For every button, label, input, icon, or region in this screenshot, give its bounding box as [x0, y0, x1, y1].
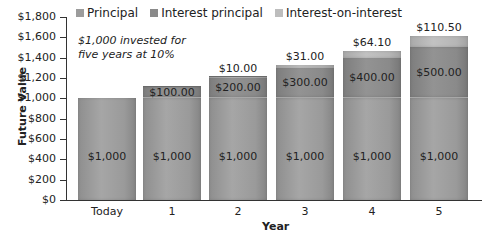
bar-top-label: $31.00: [265, 50, 345, 63]
y-tick-mark: [60, 200, 66, 201]
x-tick-label: 2: [209, 205, 267, 218]
bar-1: $1,000$100.00: [143, 88, 201, 200]
y-tick-label: $1,800: [4, 11, 56, 23]
bar-value-label: $200.00: [209, 81, 267, 94]
legend-item-interest-principal: Interest principal: [150, 6, 263, 20]
x-tick-label: 5: [410, 205, 468, 218]
annotation-line-2: five years at 10%: [78, 48, 186, 62]
y-axis-line: [66, 17, 67, 201]
bar-value-label: $1,000: [209, 150, 267, 163]
bar-top-label: $10.00: [198, 62, 278, 75]
x-axis-line: [66, 200, 482, 201]
bar-value-label: $1,000: [78, 150, 136, 163]
bar-value-label: $500.00: [410, 66, 468, 79]
legend-label: Interest-on-interest: [286, 6, 402, 20]
bar-segment-principal: [78, 98, 136, 200]
y-tick-mark: [60, 119, 66, 120]
y-tick-mark: [60, 17, 66, 18]
bar-top-label: $64.10: [332, 36, 412, 49]
legend-swatch-interest-principal: [150, 9, 158, 17]
legend: Principal Interest principal Interest-on…: [76, 6, 402, 20]
bar-top-label: $110.50: [399, 21, 479, 34]
y-tick-label: $200: [4, 174, 56, 186]
annotation-line-1: $1,000 invested for: [78, 34, 186, 48]
bar-value-label: $300.00: [276, 76, 334, 89]
bar-2: $1,000$200.00: [209, 77, 267, 200]
bar-segment-principal: [410, 98, 468, 200]
legend-label: Principal: [87, 6, 138, 20]
bar-today: $1,000: [78, 98, 136, 200]
x-tick-label: 3: [276, 205, 334, 218]
bar-4: $1,000$400.00: [343, 51, 401, 200]
y-tick-label: $1,200: [4, 72, 56, 84]
x-tick-label: 4: [343, 205, 401, 218]
legend-label: Interest principal: [161, 6, 263, 20]
y-tick-mark: [60, 159, 66, 160]
bar-segment-interest-on-interest: [410, 36, 468, 47]
bar-value-label: $100.00: [143, 86, 201, 99]
bar-value-label: $400.00: [343, 71, 401, 84]
x-axis-label: Year: [262, 220, 289, 233]
bar-value-label: $1,000: [410, 150, 468, 163]
bar-segment-interest-on-interest: [343, 51, 401, 58]
bar-value-label: $1,000: [276, 150, 334, 163]
y-tick-mark: [60, 37, 66, 38]
bar-value-label: $1,000: [343, 150, 401, 163]
bar-segment-principal: [276, 98, 334, 200]
bar-segment-interest-on-interest: [209, 77, 267, 78]
y-tick-label: $600: [4, 133, 56, 145]
x-tick-label: Today: [78, 205, 136, 218]
y-tick-mark: [60, 180, 66, 181]
legend-item-interest-on-interest: Interest-on-interest: [275, 6, 402, 20]
legend-swatch-principal: [76, 9, 84, 17]
legend-swatch-interest-on-interest: [275, 9, 283, 17]
y-tick-mark: [60, 78, 66, 79]
bar-segment-interest-on-interest: [276, 65, 334, 68]
legend-item-principal: Principal: [76, 6, 138, 20]
bar-value-label: $1,000: [143, 150, 201, 163]
y-tick-label: $1,000: [4, 92, 56, 104]
bar-3: $1,000$300.00: [276, 65, 334, 200]
y-tick-label: $1,600: [4, 31, 56, 43]
bar-segment-principal: [343, 98, 401, 200]
chart-annotation: $1,000 invested for five years at 10%: [78, 34, 186, 62]
y-tick-label: $800: [4, 113, 56, 125]
y-tick-label: $0: [4, 194, 56, 206]
y-tick-mark: [60, 139, 66, 140]
bar-segment-principal: [209, 98, 267, 200]
x-tick-label: 1: [143, 205, 201, 218]
y-tick-mark: [60, 98, 66, 99]
y-tick-label: $400: [4, 153, 56, 165]
bar-segment-principal: [143, 98, 201, 200]
y-tick-mark: [60, 58, 66, 59]
bar-5: $1,000$500.00: [410, 36, 468, 200]
y-tick-label: $1,400: [4, 52, 56, 64]
